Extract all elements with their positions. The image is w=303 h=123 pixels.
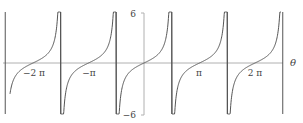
- theta-axis-label: θ: [290, 57, 296, 68]
- y-tick-minus-6: −6: [123, 110, 137, 120]
- x-tick-2pi: 2 π: [248, 68, 263, 78]
- x-tick-pi: π: [196, 68, 202, 78]
- tan-plot: 6 −6 −2 π −π π 2 π θ: [0, 0, 303, 123]
- x-tick-minus-pi: −π: [82, 68, 96, 78]
- y-tick-6: 6: [130, 9, 136, 19]
- x-tick-minus-2pi: −2 π: [23, 68, 45, 78]
